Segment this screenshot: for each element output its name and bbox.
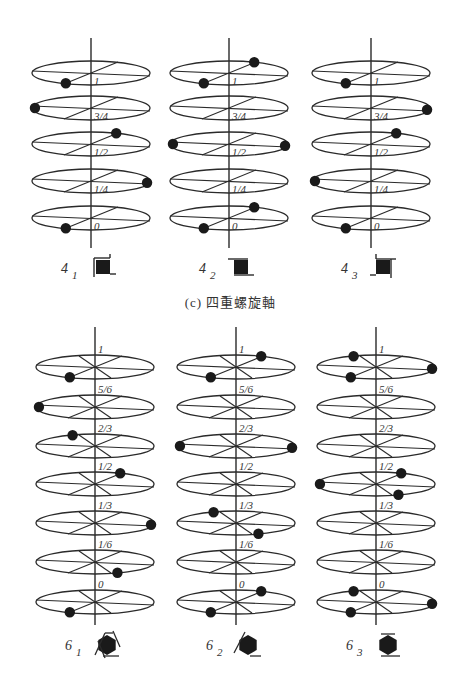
axis-label-subscript: 3	[351, 269, 358, 281]
level-label: 1	[94, 75, 100, 87]
axis-label: 4	[199, 261, 206, 276]
level-label: 1	[374, 75, 380, 87]
fourfold-screw-symbol-icon	[370, 254, 396, 278]
atom-dot	[111, 128, 121, 138]
axis-label: 4	[61, 261, 68, 276]
screw-axis-4-1: 13/41/21/4041	[30, 38, 153, 281]
level-label: 5/6	[379, 383, 394, 395]
level-label: 1/2	[232, 146, 247, 158]
level-label: 1/2	[98, 460, 113, 472]
atom-dot	[427, 364, 437, 374]
level-label: 1	[239, 343, 245, 355]
axis-label: 6	[206, 638, 213, 653]
level-label: 1/6	[379, 538, 394, 550]
level-label: 1/3	[379, 499, 394, 511]
level-label: 0	[374, 220, 380, 232]
level-label: 1	[98, 343, 104, 355]
screw-axis-4-2: 13/41/21/4042	[168, 38, 290, 281]
level-label: 1/4	[94, 183, 109, 195]
atom-dot	[427, 599, 437, 609]
level-label: 1/2	[94, 146, 109, 158]
screw-axis-4-3: 13/41/21/4043	[310, 38, 432, 281]
level-label: 1/4	[374, 183, 389, 195]
axis-label: 6	[65, 638, 72, 653]
level-label: 0	[379, 578, 385, 590]
atom-dot	[249, 57, 259, 67]
atom-dot	[65, 372, 75, 382]
level-label: 1/6	[239, 538, 254, 550]
level-label: 0	[232, 220, 238, 232]
atom-dot	[391, 128, 401, 138]
atom-dot	[280, 141, 290, 151]
atom-dot	[199, 223, 209, 233]
level-label: 3/4	[93, 110, 109, 122]
level-label: 2/3	[239, 422, 254, 434]
level-label: 0	[94, 220, 100, 232]
level-label: 3/4	[373, 110, 389, 122]
atom-dot	[287, 443, 297, 453]
level-label: 5/6	[239, 383, 254, 395]
sixfold-screw-symbol-icon	[95, 631, 120, 658]
level-label: 0	[239, 578, 245, 590]
atom-dot	[422, 105, 432, 115]
atom-dot	[206, 372, 216, 382]
atom-dot	[67, 430, 77, 440]
level-label: 0	[98, 578, 104, 590]
atom-dot	[249, 202, 259, 212]
screw-axes-diagram: 13/41/21/404113/41/21/404213/41/21/4043 …	[0, 0, 461, 684]
level-label: 1/3	[98, 499, 113, 511]
sixfold-screw-symbol-icon	[234, 632, 261, 656]
atom-dot	[61, 78, 71, 88]
atom-dot	[146, 520, 156, 530]
atom-dot	[256, 586, 266, 596]
atom-dot	[168, 139, 178, 149]
level-label: 1/2	[374, 146, 389, 158]
atom-dot	[346, 372, 356, 382]
level-label: 1/4	[232, 183, 247, 195]
axis-label-subscript: 1	[76, 646, 82, 658]
fourfold-screw-symbol-icon	[94, 254, 116, 277]
atom-dot	[341, 78, 351, 88]
level-label: 5/6	[98, 383, 113, 395]
atom-dot	[256, 351, 266, 361]
atom-dot	[396, 468, 406, 478]
atom-dot	[175, 441, 185, 451]
level-label: 2/3	[379, 422, 394, 434]
axis-label-subscript: 2	[210, 269, 216, 281]
atom-dot	[142, 178, 152, 188]
axis-label-subscript: 2	[217, 646, 223, 658]
level-label: 1/6	[98, 538, 113, 550]
atom-dot	[30, 103, 40, 113]
atom-dot	[115, 468, 125, 478]
atom-dot	[61, 223, 71, 233]
axis-label-subscript: 3	[356, 646, 363, 658]
atom-dot	[65, 607, 75, 617]
level-label: 1/3	[239, 499, 254, 511]
atom-dot	[393, 490, 403, 500]
atom-dot	[348, 586, 358, 596]
level-label: 1	[379, 343, 385, 355]
atom-dot	[348, 351, 358, 361]
fourfold-screw-symbol-icon	[228, 259, 254, 275]
axis-label-subscript: 1	[72, 269, 78, 281]
sixfold-screw-axes: 15/62/31/21/31/606115/62/31/21/31/606215…	[34, 327, 437, 658]
atom-dot	[310, 176, 320, 186]
level-label: 1	[232, 75, 238, 87]
screw-axis-6-3: 15/62/31/21/31/6063	[315, 327, 437, 658]
figure-caption: (c) 四重螺旋軸	[0, 292, 461, 311]
atom-dot	[112, 568, 122, 578]
axis-label: 4	[341, 261, 348, 276]
atom-dot	[315, 479, 325, 489]
atom-dot	[346, 607, 356, 617]
level-label: 1/2	[379, 460, 394, 472]
atom-dot	[199, 78, 209, 88]
screw-axis-6-2: 15/62/31/21/31/6062	[175, 327, 297, 658]
level-label: 2/3	[98, 422, 113, 434]
atom-dot	[208, 507, 218, 517]
atom-dot	[341, 223, 351, 233]
atom-dot	[34, 402, 44, 412]
fourfold-screw-axes: 13/41/21/404113/41/21/404213/41/21/4043	[30, 38, 432, 281]
level-label: 3/4	[231, 110, 247, 122]
axis-label: 6	[346, 638, 353, 653]
level-label: 1/2	[239, 460, 254, 472]
